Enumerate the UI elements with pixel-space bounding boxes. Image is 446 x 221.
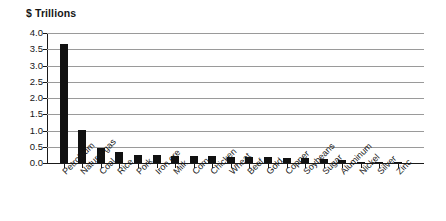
x-axis-tick [138, 164, 139, 168]
y-axis-tick [43, 98, 47, 99]
x-axis-tick [305, 164, 306, 168]
y-axis-tick [43, 66, 47, 67]
x-axis-tick [64, 164, 65, 168]
x-axis-tick-labels: PetroleumNatural gasCoalRicePorkIron ore… [0, 0, 446, 221]
x-axis-tick [342, 164, 343, 168]
x-axis-tick [157, 164, 158, 168]
y-axis-tick [43, 163, 47, 164]
x-axis-tick [287, 164, 288, 168]
x-axis-tick [82, 164, 83, 168]
x-axis-tick [268, 164, 269, 168]
y-axis-tick [43, 82, 47, 83]
x-axis-tick [119, 164, 120, 168]
bar-chart: $ Trillions 4.03.53.02.52.01.51.00.50.0 … [0, 0, 446, 221]
x-axis-tick [175, 164, 176, 168]
x-axis-tick [212, 164, 213, 168]
x-axis-tick [361, 164, 362, 168]
x-axis-tick [379, 164, 380, 168]
x-axis-tick [324, 164, 325, 168]
x-axis-tick [398, 164, 399, 168]
y-axis-tick [43, 33, 47, 34]
x-axis-tick [231, 164, 232, 168]
y-axis-tick [43, 147, 47, 148]
x-axis-tick [194, 164, 195, 168]
x-axis-tick [101, 164, 102, 168]
y-axis-tick [43, 49, 47, 50]
y-axis-tick [43, 114, 47, 115]
x-axis-tick [249, 164, 250, 168]
y-axis-tick [43, 131, 47, 132]
